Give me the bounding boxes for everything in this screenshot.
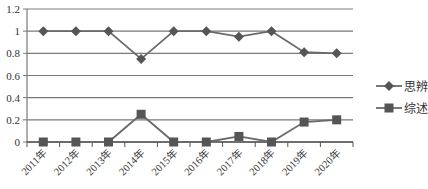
diamond-marker	[332, 48, 342, 58]
diamond-marker	[384, 81, 394, 91]
square-marker	[104, 138, 113, 147]
square-marker	[385, 104, 394, 113]
y-tick-label: 0.6	[6, 70, 20, 82]
diamond-marker	[267, 26, 277, 36]
x-tick-label: 2014年	[116, 147, 146, 177]
square-marker	[169, 138, 178, 147]
legend: 思辨综述	[376, 80, 428, 116]
square-marker	[137, 110, 146, 119]
legend-label: 综述	[404, 102, 428, 116]
x-tick-label: 2020年	[312, 147, 342, 177]
x-tick-label: 2012年	[51, 147, 81, 177]
square-marker	[300, 118, 309, 127]
x-tick-label: 2013年	[84, 147, 114, 177]
square-marker	[39, 138, 48, 147]
data-series	[38, 26, 341, 146]
x-tick-label: 2016年	[181, 147, 211, 177]
diamond-marker	[299, 47, 309, 57]
series-zongshu	[39, 110, 341, 147]
x-axis: 2011年2012年2013年2014年2015年2016年2017年2018年…	[19, 142, 353, 177]
series-line	[43, 114, 336, 142]
x-tick-label: 2015年	[149, 147, 179, 177]
square-marker	[71, 138, 80, 147]
y-tick-label: 0	[15, 136, 21, 148]
square-marker	[202, 138, 211, 147]
y-tick-label: 1.2	[6, 3, 20, 15]
series-sibian	[38, 26, 341, 64]
diamond-marker	[71, 26, 81, 36]
series-line	[43, 31, 336, 59]
square-marker	[267, 138, 276, 147]
legend-item: 思辨	[376, 80, 428, 94]
y-tick-label: 0.4	[6, 92, 20, 104]
x-tick-label: 2019年	[279, 147, 309, 177]
x-tick-label: 2018年	[247, 147, 277, 177]
line-chart: 00.20.40.60.811.2 2011年2012年2013年2014年20…	[0, 0, 428, 189]
y-tick-label: 0.8	[6, 47, 20, 59]
square-marker	[332, 115, 341, 124]
y-axis: 00.20.40.60.811.2	[6, 3, 27, 148]
legend-item: 综述	[376, 102, 428, 116]
x-tick-label: 2017年	[214, 147, 244, 177]
legend-label: 思辨	[404, 80, 428, 94]
y-tick-label: 0.2	[6, 114, 20, 126]
square-marker	[234, 132, 243, 141]
diamond-marker	[38, 26, 48, 36]
diamond-marker	[234, 32, 244, 42]
x-tick-label: 2011年	[19, 147, 49, 177]
diamond-marker	[201, 26, 211, 36]
y-tick-label: 1	[15, 25, 21, 37]
